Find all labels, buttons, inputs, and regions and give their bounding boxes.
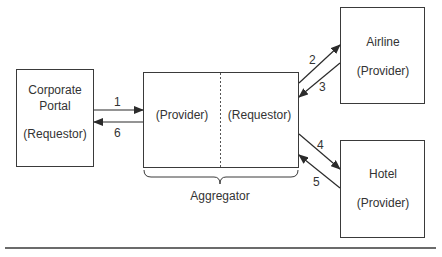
airline-box (341, 8, 425, 104)
airline-title: Airline (341, 35, 425, 49)
aggregator-title: Aggregator (180, 189, 260, 203)
hotel-role: (Provider) (341, 196, 425, 210)
arrow-2 (299, 45, 340, 83)
portal-title-line2: Portal (16, 99, 94, 113)
edge-label-1: 1 (114, 96, 121, 108)
edge-label-2: 2 (309, 54, 316, 66)
edge-label-5: 5 (313, 176, 320, 188)
airline-role: (Provider) (341, 64, 425, 78)
hotel-box (341, 141, 425, 238)
aggregator-right-role: (Requestor) (221, 108, 298, 122)
edge-label-3: 3 (319, 81, 326, 93)
portal-role: (Requestor) (16, 127, 94, 141)
aggregator-left-role: (Provider) (144, 108, 220, 122)
hotel-title: Hotel (341, 167, 425, 181)
edge-label-6: 6 (114, 127, 121, 139)
aggregator-brace (144, 170, 298, 184)
portal-title-line1: Corporate (16, 83, 94, 97)
edge-label-4: 4 (317, 139, 324, 151)
